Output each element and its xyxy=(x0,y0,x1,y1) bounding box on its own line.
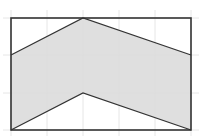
diagram xyxy=(0,0,203,139)
shaded-chevron-region xyxy=(11,18,191,130)
diagram-canvas xyxy=(0,0,203,139)
